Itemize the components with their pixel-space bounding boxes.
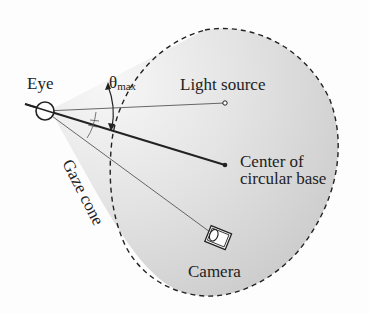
eye-label: Eye xyxy=(27,74,53,93)
light-source-label: Light source xyxy=(180,75,265,94)
camera-label: Camera xyxy=(188,262,241,281)
theta-subscript: max xyxy=(117,80,136,92)
eye-icon xyxy=(36,102,54,120)
base-center-point xyxy=(223,163,228,168)
theta-symbol: θ xyxy=(109,73,117,92)
light-source-point xyxy=(223,101,227,105)
gaze-cone-diagram: Eye θmax Light source Center of circular… xyxy=(0,0,369,313)
diagram-canvas: Eye θmax Light source Center of circular… xyxy=(0,0,369,313)
center-label-line2: circular base xyxy=(240,169,326,188)
